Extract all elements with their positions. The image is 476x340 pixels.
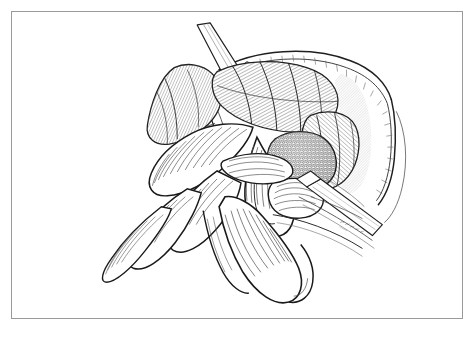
figure-caption	[11, 327, 463, 338]
illustration-frame	[11, 11, 463, 319]
surgical-illustration	[12, 12, 462, 318]
figure-root: Intraoperative view of open abdomen with…	[0, 0, 476, 340]
